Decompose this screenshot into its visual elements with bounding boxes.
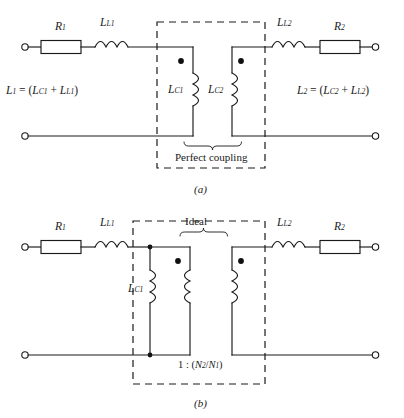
label-ll1-b: LL1 xyxy=(100,217,114,229)
terminal-b-top-left xyxy=(22,244,28,250)
polarity-dot-secondary-b xyxy=(238,258,244,264)
inductor-lc1-b xyxy=(150,270,156,303)
inductor-ll1-b xyxy=(95,242,128,248)
inductor-ll2-a xyxy=(272,42,305,48)
label-lc1-a: LC1 xyxy=(168,84,183,96)
ideal-brace xyxy=(180,228,228,236)
polarity-dot-primary-b xyxy=(175,258,181,264)
winding-primary-b xyxy=(185,270,191,303)
inductor-ll2-b xyxy=(272,242,305,248)
polarity-dot-primary-a xyxy=(178,58,184,64)
caption-panel-a: (a) xyxy=(194,184,207,195)
equation-l2-a: L2 = (LC2 + LL2) xyxy=(297,85,369,97)
label-r1-a: R1 xyxy=(55,21,66,33)
label-turns-ratio: 1 : (N2/N1) xyxy=(178,360,223,371)
annotation-perfect-coupling: Perfect coupling xyxy=(175,152,247,163)
resistor-r2-b xyxy=(320,241,360,254)
terminal-a-top-left xyxy=(22,44,28,50)
inductor-ll1-a xyxy=(95,42,128,48)
polarity-dot-secondary-a xyxy=(238,58,244,64)
terminal-b-bottom-right xyxy=(372,352,378,358)
inductor-lc1-a xyxy=(193,73,199,106)
caption-panel-b: (b) xyxy=(194,398,207,409)
resistor-r1-a xyxy=(41,41,81,54)
terminal-a-top-right xyxy=(372,44,378,50)
label-r2-b: R2 xyxy=(334,221,345,233)
terminal-b-bottom-left xyxy=(22,352,28,358)
label-ll1-a: LL1 xyxy=(100,17,114,29)
label-lc2-a: LC2 xyxy=(208,84,223,96)
inductor-lc2-a xyxy=(232,73,238,106)
terminal-a-bottom-right xyxy=(372,133,378,139)
label-ll2-b: LL2 xyxy=(277,217,291,229)
equation-l1-a: L1 = (LC1 + LL1) xyxy=(6,85,78,97)
annotation-ideal: Ideal xyxy=(185,216,207,227)
label-r2-a: R2 xyxy=(334,21,345,33)
resistor-r2-a xyxy=(320,41,360,54)
label-lc1-b: LC1 xyxy=(128,283,143,295)
figure-root: R1 LL1 LL2 R2 LC1 LC2 L1 = (LC1 + LL1) L… xyxy=(0,0,404,418)
perfect-coupling-brace xyxy=(184,142,242,150)
resistor-r1-b xyxy=(41,241,81,254)
terminal-b-top-right xyxy=(372,244,378,250)
label-ll2-a: LL2 xyxy=(277,17,291,29)
label-r1-b: R1 xyxy=(55,221,66,233)
circuit-schematic-svg xyxy=(0,0,404,418)
winding-secondary-b xyxy=(232,270,238,303)
terminal-a-bottom-left xyxy=(22,133,28,139)
